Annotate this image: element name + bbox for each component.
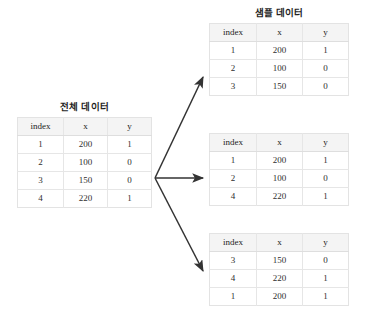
- table-row: 1 200 1: [210, 288, 349, 306]
- cell-x: 150: [64, 172, 108, 190]
- cell-x: 200: [257, 288, 303, 306]
- cell-y: 1: [303, 42, 349, 60]
- source-table-title: 전체 데이터: [17, 101, 152, 113]
- sample-data-table-2: index x y 1 200 1 2 100 0 4 220: [209, 133, 349, 206]
- cell-index: 3: [210, 78, 257, 96]
- column-header-index: index: [210, 234, 257, 252]
- diagram-canvas: 전체 데이터 index x y 1 200 1 2 100 0: [0, 0, 366, 326]
- arrow-to-sample-3: [155, 178, 203, 271]
- arrow-to-sample-1: [155, 77, 203, 178]
- table-row: 3 150 0: [18, 172, 152, 190]
- cell-index: 1: [18, 136, 64, 154]
- cell-x: 100: [64, 154, 108, 172]
- cell-y: 1: [108, 136, 152, 154]
- table-row: 1 200 1: [210, 42, 349, 60]
- table-header-row: index x y: [210, 24, 349, 42]
- cell-y: 1: [108, 190, 152, 208]
- cell-x: 100: [257, 170, 303, 188]
- table-row: 2 100 0: [18, 154, 152, 172]
- cell-x: 200: [257, 152, 303, 170]
- cell-y: 1: [303, 152, 349, 170]
- cell-index: 1: [210, 42, 257, 60]
- column-header-y: y: [108, 118, 152, 136]
- cell-y: 1: [303, 288, 349, 306]
- cell-index: 1: [210, 152, 257, 170]
- cell-index: 3: [18, 172, 64, 190]
- sample-table-title: 샘플 데이터: [209, 7, 349, 19]
- cell-y: 1: [303, 188, 349, 206]
- cell-index: 2: [18, 154, 64, 172]
- sample-table-block-3: index x y 3 150 0 4 220 1 1 200: [209, 233, 349, 306]
- column-header-y: y: [303, 234, 349, 252]
- cell-y: 1: [303, 270, 349, 288]
- column-header-y: y: [303, 24, 349, 42]
- column-header-y: y: [303, 134, 349, 152]
- table-row: 1 200 1: [210, 152, 349, 170]
- column-header-index: index: [210, 24, 257, 42]
- table-row: 2 100 0: [210, 170, 349, 188]
- table-header-row: index x y: [210, 134, 349, 152]
- cell-x: 220: [257, 188, 303, 206]
- sample-table-block-1: 샘플 데이터 index x y 1 200 1 2 100 0: [209, 7, 349, 96]
- table-row: 3 150 0: [210, 78, 349, 96]
- cell-index: 3: [210, 252, 257, 270]
- cell-x: 220: [257, 270, 303, 288]
- sample-data-table-1: index x y 1 200 1 2 100 0 3 150: [209, 23, 349, 96]
- cell-y: 0: [108, 154, 152, 172]
- cell-index: 2: [210, 170, 257, 188]
- cell-x: 200: [64, 136, 108, 154]
- cell-x: 150: [257, 252, 303, 270]
- cell-x: 200: [257, 42, 303, 60]
- source-table-block: 전체 데이터 index x y 1 200 1 2 100 0: [17, 101, 152, 208]
- table-row: 1 200 1: [18, 136, 152, 154]
- column-header-index: index: [210, 134, 257, 152]
- cell-y: 0: [303, 252, 349, 270]
- cell-index: 4: [210, 270, 257, 288]
- table-header-row: index x y: [18, 118, 152, 136]
- column-header-x: x: [257, 24, 303, 42]
- sample-table-block-2: index x y 1 200 1 2 100 0 4 220: [209, 133, 349, 206]
- column-header-index: index: [18, 118, 64, 136]
- column-header-x: x: [257, 234, 303, 252]
- table-header-row: index x y: [210, 234, 349, 252]
- cell-x: 220: [64, 190, 108, 208]
- table-row: 2 100 0: [210, 60, 349, 78]
- source-data-table: index x y 1 200 1 2 100 0 3 150: [17, 117, 152, 208]
- column-header-x: x: [64, 118, 108, 136]
- column-header-x: x: [257, 134, 303, 152]
- cell-x: 100: [257, 60, 303, 78]
- cell-index: 1: [210, 288, 257, 306]
- cell-y: 0: [303, 60, 349, 78]
- cell-x: 150: [257, 78, 303, 96]
- cell-index: 2: [210, 60, 257, 78]
- cell-index: 4: [210, 188, 257, 206]
- cell-index: 4: [18, 190, 64, 208]
- cell-y: 0: [303, 170, 349, 188]
- table-row: 4 220 1: [18, 190, 152, 208]
- cell-y: 0: [303, 78, 349, 96]
- table-row: 4 220 1: [210, 188, 349, 206]
- sample-data-table-3: index x y 3 150 0 4 220 1 1 200: [209, 233, 349, 306]
- table-row: 4 220 1: [210, 270, 349, 288]
- table-row: 3 150 0: [210, 252, 349, 270]
- cell-y: 0: [108, 172, 152, 190]
